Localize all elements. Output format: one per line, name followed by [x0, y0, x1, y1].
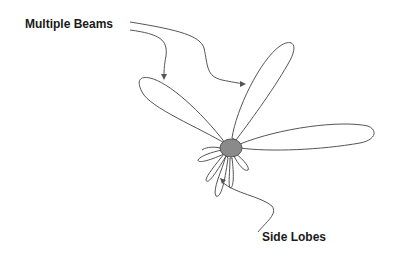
- multiple-beams-label: Multiple Beams: [25, 17, 113, 31]
- side-lobes-label: Side Lobes: [262, 230, 326, 244]
- arrowhead-icon: [161, 74, 167, 80]
- callout-line-beams-left: [130, 30, 166, 78]
- radiation-pattern-diagram: [0, 0, 393, 258]
- antenna-hub: [220, 139, 242, 157]
- side-lobe: [229, 158, 233, 188]
- beam-upper-left: [139, 78, 226, 144]
- side-lobe: [202, 147, 220, 150]
- side-lobe: [198, 150, 224, 162]
- callout-line-beams-upper: [130, 22, 244, 84]
- beam-upper: [232, 43, 294, 140]
- arrowhead-icon: [240, 81, 246, 87]
- side-lobe: [206, 154, 226, 181]
- callout-line-side-lobes: [222, 182, 274, 232]
- beam-right: [240, 124, 374, 150]
